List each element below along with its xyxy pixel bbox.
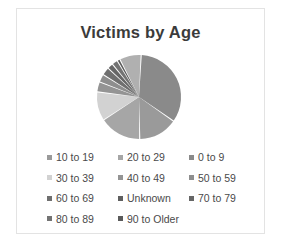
legend-swatch-icon xyxy=(47,196,52,201)
legend-item-label: Unknown xyxy=(127,193,171,204)
legend-item-label: 20 to 29 xyxy=(127,152,165,163)
legend-row: 60 to 69Unknown70 to 79 xyxy=(31,188,250,209)
legend-item-label: 10 to 19 xyxy=(56,152,94,163)
legend-item-label: 30 to 39 xyxy=(56,173,94,184)
legend-item[interactable]: 50 to 59 xyxy=(189,173,260,184)
legend-item[interactable]: 80 to 89 xyxy=(47,214,118,225)
legend-item[interactable]: 90 to Older xyxy=(118,214,189,225)
legend-swatch-icon xyxy=(189,155,194,160)
legend-item[interactable]: 70 to 79 xyxy=(189,193,260,204)
legend-item-label: 90 to Older xyxy=(127,214,179,225)
legend-item-label: 60 to 69 xyxy=(56,193,94,204)
legend-row: 30 to 3940 to 4950 to 59 xyxy=(31,168,250,189)
legend-item[interactable]: 10 to 19 xyxy=(47,152,118,163)
chart-legend: 10 to 1920 to 290 to 930 to 3940 to 4950… xyxy=(17,147,264,229)
legend-item[interactable]: 40 to 49 xyxy=(118,173,189,184)
legend-item-label: 40 to 49 xyxy=(127,173,165,184)
legend-swatch-icon xyxy=(47,216,52,221)
legend-swatch-icon xyxy=(118,155,123,160)
legend-item[interactable]: Unknown xyxy=(118,193,189,204)
legend-item[interactable]: 20 to 29 xyxy=(118,152,189,163)
legend-swatch-icon xyxy=(118,175,123,180)
legend-swatch-icon xyxy=(189,196,194,201)
pie-chart: 0 to 9: 3410 to 19: 1520 to 29: 1630 to … xyxy=(17,53,264,141)
page-title: Victims by Age xyxy=(17,23,264,42)
legend-item-label: 50 to 59 xyxy=(198,173,236,184)
legend-item-label: 80 to 89 xyxy=(56,214,94,225)
legend-swatch-icon xyxy=(47,155,52,160)
legend-row: 10 to 1920 to 290 to 9 xyxy=(31,147,250,168)
pie-slice-group: 0 to 9: 3410 to 19: 1520 to 29: 1630 to … xyxy=(97,55,181,139)
chart-frame: Victims by Age 0 to 9: 3410 to 19: 1520 … xyxy=(16,8,265,234)
legend-item[interactable]: 0 to 9 xyxy=(189,152,260,163)
legend-swatch-icon xyxy=(189,175,194,180)
legend-item[interactable]: 60 to 69 xyxy=(47,193,118,204)
legend-item[interactable]: 30 to 39 xyxy=(47,173,118,184)
legend-swatch-icon xyxy=(118,196,123,201)
legend-row: 80 to 8990 to Older xyxy=(31,209,250,230)
legend-item-label: 70 to 79 xyxy=(198,193,236,204)
legend-item-label: 0 to 9 xyxy=(198,152,224,163)
legend-swatch-icon xyxy=(118,216,123,221)
pie-chart-svg: 0 to 9: 3410 to 19: 1520 to 29: 1630 to … xyxy=(79,53,203,141)
legend-swatch-icon xyxy=(47,175,52,180)
